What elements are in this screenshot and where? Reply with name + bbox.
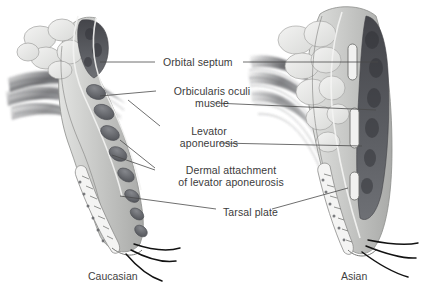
- asian-eyelid-illustration: [248, 7, 418, 277]
- label-orbital-septum: Orbital septum: [163, 56, 233, 68]
- label-levator-aponeurosis: Levator aponeurosis: [166, 125, 252, 149]
- label-levator-line2: aponeurosis: [180, 137, 238, 149]
- label-orbicularis-oculi-muscle: Orbicularis oculi muscle: [163, 85, 261, 109]
- orbicularis-bundles-right: [348, 44, 359, 200]
- label-dermal-line1: Dermal attachment: [186, 164, 276, 176]
- eyelid-anatomy-figure: Orbital septum Orbicularis oculi muscle …: [0, 0, 441, 296]
- leader-levator-left: [128, 100, 160, 126]
- label-tarsal-plate-text: Tarsal plate: [223, 206, 278, 218]
- label-dermal-attachment: Dermal attachment of levator aponeurosis: [158, 164, 304, 188]
- caucasian-eyelid-illustration: [6, 16, 180, 281]
- label-orbicularis-line1: Orbicularis oculi: [174, 85, 250, 97]
- label-levator-line1: Levator: [191, 125, 227, 137]
- label-tarsal-plate: Tarsal plate: [223, 206, 278, 218]
- caption-caucasian: Caucasian: [88, 270, 138, 282]
- label-dermal-line2: of levator aponeurosis: [178, 176, 284, 188]
- label-orbital-septum-text: Orbital septum: [163, 56, 233, 68]
- caption-asian: Asian: [341, 270, 367, 282]
- label-orbicularis-line2: muscle: [195, 97, 229, 109]
